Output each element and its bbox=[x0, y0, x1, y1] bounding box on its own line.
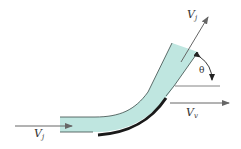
water-jet bbox=[60, 43, 198, 132]
vane-velocity-label: Vv bbox=[186, 107, 198, 120]
outlet-velocity-label: Vj bbox=[187, 9, 197, 22]
inlet-velocity-label: Vj bbox=[34, 128, 44, 141]
angle-label: θ bbox=[199, 66, 204, 75]
jet-vane-diagram: Vj θ Vv Vj bbox=[0, 0, 241, 149]
